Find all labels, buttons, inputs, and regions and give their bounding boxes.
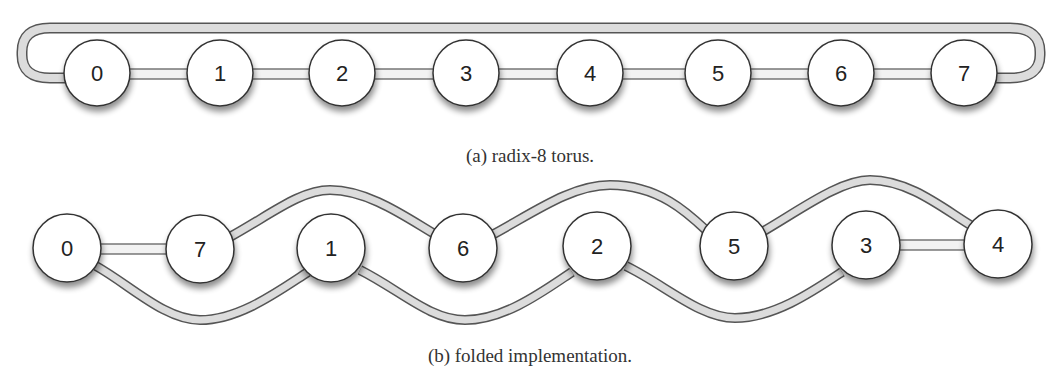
svg-text:5: 5	[728, 234, 740, 259]
node-b-7: 7	[166, 215, 234, 283]
node-a-5: 5	[685, 40, 751, 106]
node-b-4: 4	[964, 210, 1032, 278]
svg-text:4: 4	[584, 61, 596, 86]
svg-text:5: 5	[712, 61, 724, 86]
svg-text:0: 0	[91, 61, 103, 86]
svg-text:7: 7	[958, 61, 970, 86]
node-b-5: 5	[700, 212, 768, 280]
svg-text:0: 0	[61, 236, 73, 261]
link-3-4	[891, 240, 975, 250]
torus-links	[22, 28, 1040, 79]
svg-text:1: 1	[325, 236, 337, 261]
node-b-3: 3	[832, 211, 900, 279]
svg-text:3: 3	[460, 61, 472, 86]
svg-text:6: 6	[457, 236, 469, 261]
node-b-2: 2	[563, 212, 631, 280]
node-a-3: 3	[433, 40, 499, 106]
node-a-4: 4	[557, 40, 623, 106]
caption-a: (a) radix-8 torus.	[466, 145, 594, 167]
svg-text:2: 2	[336, 61, 348, 86]
svg-text:3: 3	[860, 233, 872, 258]
node-a-6: 6	[808, 40, 874, 106]
node-a-2: 2	[309, 40, 375, 106]
node-b-1: 1	[297, 214, 365, 282]
caption-b: (b) folded implementation.	[428, 345, 632, 367]
svg-text:7: 7	[194, 237, 206, 262]
node-b-6: 6	[429, 214, 497, 282]
svg-text:1: 1	[214, 61, 226, 86]
folded-nodes: 0 7 1 6 2 5 3 4	[33, 210, 1032, 283]
node-a-1: 1	[187, 40, 253, 106]
node-a-7: 7	[931, 40, 997, 106]
svg-text:6: 6	[835, 61, 847, 86]
node-b-0: 0	[33, 214, 101, 282]
node-a-0: 0	[64, 40, 130, 106]
svg-text:4: 4	[992, 232, 1004, 257]
svg-text:2: 2	[591, 234, 603, 259]
torus-diagram-canvas: 0 1 2 3 4 5 6 7 (a) radix-8 torus.	[0, 0, 1061, 372]
link-0-7	[95, 244, 177, 254]
